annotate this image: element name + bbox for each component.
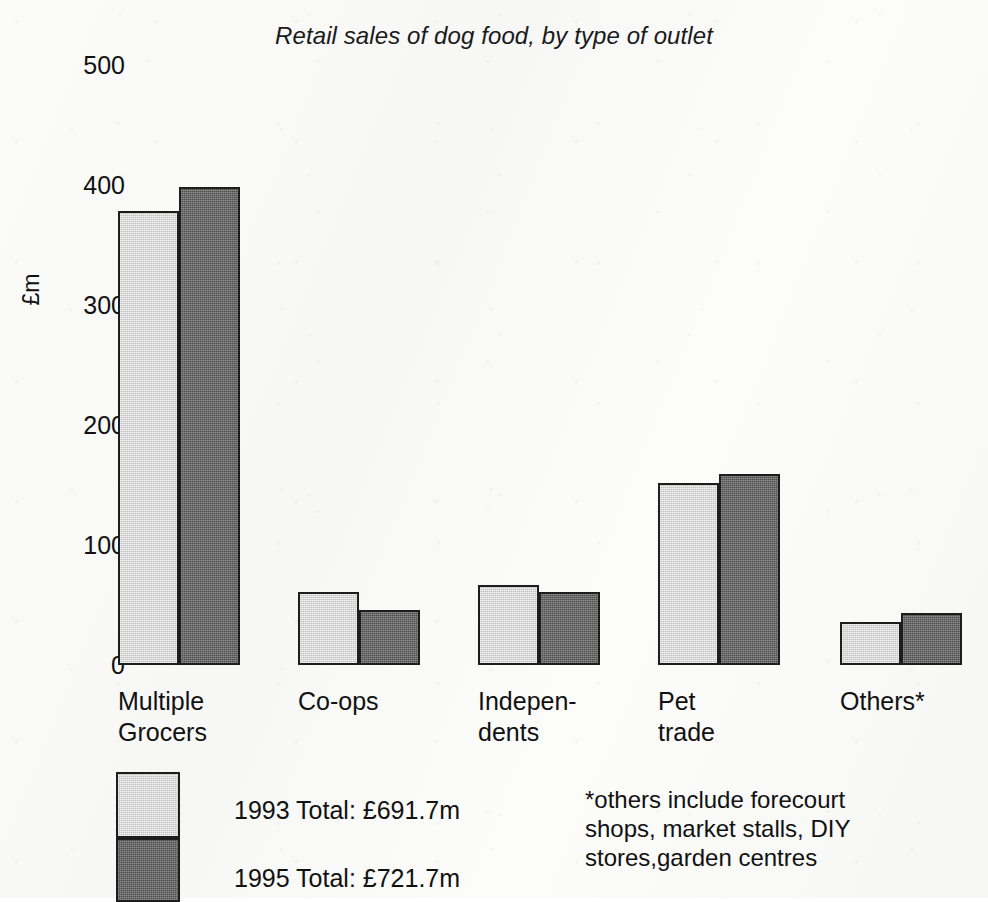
bars-layer xyxy=(0,0,988,680)
x-category-label-4: Pet trade xyxy=(658,686,715,748)
chart-legend: 1993 Total: £691.7m 1995 Total: £721.7m xyxy=(0,766,560,898)
x-category-label-5: Others* xyxy=(840,686,925,717)
bar-1995-4 xyxy=(719,474,780,665)
legend-label-1993: 1993 Total: £691.7m xyxy=(234,796,460,825)
x-category-label-1: Multiple Grocers xyxy=(118,686,207,748)
bar-1993-4 xyxy=(658,483,719,665)
x-category-label-3: Indepen- dents xyxy=(478,686,577,748)
bar-1993-3 xyxy=(478,585,539,665)
bar-1995-5 xyxy=(901,613,962,665)
legend-swatch-1993 xyxy=(116,772,180,838)
bar-1993-5 xyxy=(840,622,901,665)
legend-swatch-1995 xyxy=(116,838,180,902)
footnote-others-definition: *others include forecourt shops, market … xyxy=(585,785,975,872)
bar-1993-1 xyxy=(118,211,179,665)
bar-1995-3 xyxy=(539,592,600,665)
bar-1993-2 xyxy=(298,592,359,665)
x-axis-category-labels: Multiple GrocersCo-opsIndepen- dentsPet … xyxy=(0,676,988,766)
legend-label-1995: 1995 Total: £721.7m xyxy=(234,864,460,893)
x-category-label-2: Co-ops xyxy=(298,686,379,717)
bar-1995-2 xyxy=(359,610,420,665)
bar-1995-1 xyxy=(179,187,240,665)
plot-area: £m 5004003002001000 xyxy=(0,0,988,680)
